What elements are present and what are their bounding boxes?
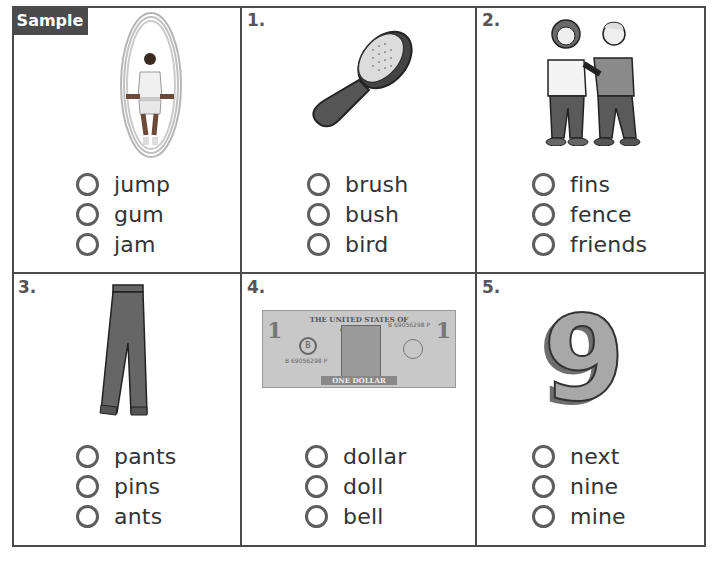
answer-option[interactable]: gum [76, 199, 164, 229]
answer-option[interactable]: fence [532, 199, 632, 229]
answer-bubble[interactable] [305, 445, 328, 468]
answer-option[interactable]: pins [76, 471, 160, 501]
number-nine-picture: 9 [544, 303, 624, 413]
sample-badge: Sample [12, 6, 88, 35]
answer-bubble[interactable] [307, 203, 330, 226]
answer-option[interactable]: pants [76, 441, 176, 471]
answer-bubble[interactable] [76, 233, 99, 256]
two-friends-picture [538, 16, 643, 146]
answer-word: fence [570, 202, 632, 227]
bill-serial: B 69056298 P [285, 357, 327, 364]
answer-word: bell [343, 504, 384, 529]
answer-bubble[interactable] [532, 233, 555, 256]
answer-options: pants pins ants [12, 441, 241, 531]
item-number: 4. [247, 277, 265, 297]
answer-option[interactable]: bush [307, 199, 399, 229]
answer-word: nine [570, 474, 618, 499]
item-4: 4. THE UNITED STATES OF AMERICA 1 1 B B … [241, 273, 476, 547]
answer-option[interactable]: bird [307, 229, 389, 259]
answer-options: next nine mine [476, 441, 706, 531]
answer-word: jump [114, 172, 170, 197]
answer-word: bush [345, 202, 399, 227]
answer-options: jump gum jam [12, 169, 241, 259]
answer-bubble[interactable] [305, 475, 328, 498]
bill-bottom-text: ONE DOLLAR [321, 376, 397, 385]
bill-seal: B [299, 337, 317, 355]
item-number: 2. [482, 10, 500, 30]
item-number: 3. [18, 277, 36, 297]
answer-word: next [570, 444, 620, 469]
bill-denomination: 1 [436, 317, 451, 343]
pants-picture [95, 283, 160, 423]
answer-option[interactable]: jam [76, 229, 156, 259]
answer-word: gum [114, 202, 164, 227]
answer-bubble[interactable] [532, 475, 555, 498]
item-5: 5. 9 next nine mine [476, 273, 706, 547]
answer-option[interactable]: nine [532, 471, 618, 501]
answer-word: fins [570, 172, 610, 197]
answer-bubble[interactable] [532, 505, 555, 528]
item-3: 3. pants pins ants [12, 273, 241, 547]
answer-option[interactable]: fins [532, 169, 610, 199]
answer-bubble[interactable] [76, 475, 99, 498]
answer-bubble[interactable] [76, 445, 99, 468]
answer-option[interactable]: next [532, 441, 620, 471]
item-number: 5. [482, 277, 500, 297]
answer-bubble[interactable] [76, 173, 99, 196]
answer-bubble[interactable] [532, 173, 555, 196]
answer-options: dollar doll bell [241, 441, 476, 531]
answer-bubble[interactable] [76, 203, 99, 226]
answer-bubble[interactable] [76, 505, 99, 528]
answer-bubble[interactable] [532, 445, 555, 468]
hair-brush-picture [307, 30, 417, 140]
item-number: 1. [247, 10, 265, 30]
answer-word: dollar [343, 444, 406, 469]
answer-option[interactable]: brush [307, 169, 408, 199]
answer-bubble[interactable] [305, 505, 328, 528]
answer-word: ants [114, 504, 162, 529]
answer-word: mine [570, 504, 626, 529]
answer-options: fins fence friends [476, 169, 706, 259]
answer-bubble[interactable] [532, 203, 555, 226]
answer-option[interactable]: friends [532, 229, 647, 259]
bill-denomination: 1 [267, 317, 282, 343]
portrait-icon [341, 325, 381, 377]
answer-word: brush [345, 172, 408, 197]
answer-option[interactable]: ants [76, 501, 162, 531]
answer-word: pants [114, 444, 176, 469]
item-2: 2. fins fence friends [476, 6, 706, 273]
answer-option[interactable]: doll [305, 471, 383, 501]
answer-options: brush bush bird [241, 169, 476, 259]
answer-option[interactable]: dollar [305, 441, 406, 471]
jump-rope-boy-picture [116, 10, 186, 160]
answer-option[interactable]: jump [76, 169, 170, 199]
treasury-seal-icon [403, 339, 423, 359]
bill-serial: B 69056298 P [388, 321, 430, 328]
item-sample: jump gum jam [12, 6, 241, 273]
answer-word: jam [114, 232, 156, 257]
answer-word: pins [114, 474, 160, 499]
answer-word: friends [570, 232, 647, 257]
answer-option[interactable]: bell [305, 501, 384, 531]
item-1: 1. brush bush bird [241, 6, 476, 273]
answer-bubble[interactable] [307, 173, 330, 196]
answer-word: doll [343, 474, 383, 499]
nine-glyph: 9 [543, 299, 625, 417]
answer-bubble[interactable] [307, 233, 330, 256]
answer-option[interactable]: mine [532, 501, 626, 531]
one-dollar-bill-picture: THE UNITED STATES OF AMERICA 1 1 B B 690… [262, 310, 456, 388]
answer-word: bird [345, 232, 389, 257]
